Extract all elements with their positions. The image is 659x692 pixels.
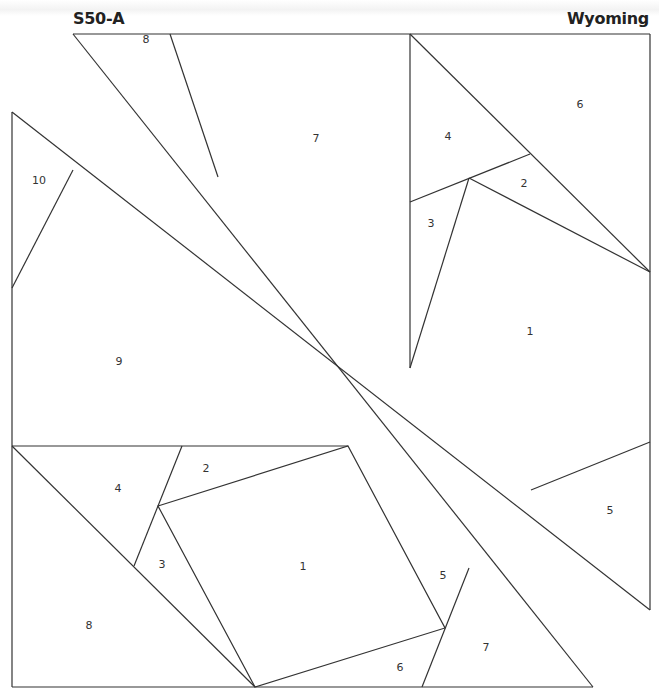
label-ul-8: 8 <box>143 33 150 46</box>
label-ul-7: 7 <box>313 132 320 145</box>
band-lower-edge <box>12 112 650 610</box>
seam-4-8 <box>12 446 255 687</box>
seam-5-7-6 <box>422 568 469 687</box>
label-ur-5: 5 <box>607 504 614 517</box>
quilt-pattern-diagram: 8 7 10 9 6 4 2 3 1 5 2 4 3 1 5 8 7 6 <box>0 0 659 692</box>
label-ur-4: 4 <box>445 130 452 143</box>
seam-8-7 <box>170 34 218 177</box>
band-upper-edge <box>73 34 593 687</box>
upper-left-section <box>12 34 650 687</box>
seam-10-9 <box>12 170 73 288</box>
seam-1-5 <box>531 442 650 490</box>
label-ur-3: 3 <box>428 217 435 230</box>
label-ur-6: 6 <box>577 98 584 111</box>
label-ll-5: 5 <box>440 569 447 582</box>
label-ll-1: 1 <box>300 560 307 573</box>
seam-2-1 <box>469 178 650 272</box>
label-ll-8: 8 <box>86 619 93 632</box>
label-ul-9: 9 <box>116 355 123 368</box>
label-ur-2: 2 <box>521 177 528 190</box>
label-ul-10: 10 <box>32 174 46 187</box>
label-ll-4: 4 <box>115 482 122 495</box>
label-ll-6: 6 <box>397 661 404 674</box>
label-ll-2: 2 <box>203 462 210 475</box>
label-ll-7: 7 <box>483 641 490 654</box>
label-ll-3: 3 <box>159 558 166 571</box>
seam-3-1 <box>410 178 469 368</box>
seam-4-6 <box>410 34 650 272</box>
label-ur-1: 1 <box>527 325 534 338</box>
upper-right-section <box>410 34 650 610</box>
piece-labels: 8 7 10 9 6 4 2 3 1 5 2 4 3 1 5 8 7 6 <box>32 33 614 674</box>
